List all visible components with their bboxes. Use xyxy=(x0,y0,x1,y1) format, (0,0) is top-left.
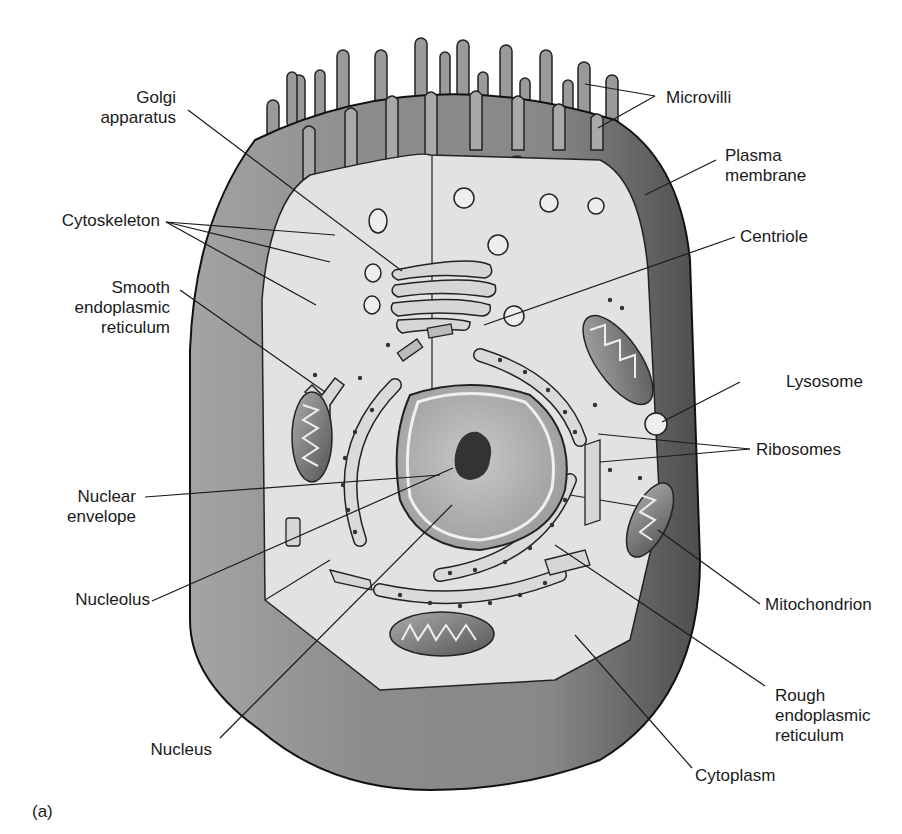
lysosome xyxy=(645,413,667,435)
label-nuclear-envelope: Nuclear envelope xyxy=(40,487,136,527)
label-cytoplasm: Cytoplasm xyxy=(695,766,835,786)
label-lysosome: Lysosome xyxy=(786,372,896,392)
label-microvilli: Microvilli xyxy=(666,88,826,108)
label-centriole: Centriole xyxy=(740,227,880,247)
label-golgi-apparatus: Golgi apparatus xyxy=(80,88,176,128)
cell-diagram: Golgi apparatus Cytoskeleton Smooth endo… xyxy=(0,0,902,834)
label-cytoskeleton: Cytoskeleton xyxy=(30,211,160,231)
label-plasma-membrane: Plasma membrane xyxy=(725,146,885,186)
label-rough-er: Rough endoplasmic reticulum xyxy=(775,686,895,746)
panel-label: (a) xyxy=(32,802,72,822)
label-nucleus: Nucleus xyxy=(110,740,212,760)
label-smooth-er: Smooth endoplasmic reticulum xyxy=(40,278,170,338)
label-nucleolus: Nucleolus xyxy=(40,590,150,610)
label-mitochondrion: Mitochondrion xyxy=(765,595,902,615)
label-ribosomes: Ribosomes xyxy=(756,440,896,460)
nucleus xyxy=(397,385,567,550)
